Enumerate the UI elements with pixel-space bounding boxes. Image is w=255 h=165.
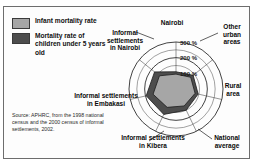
figure-frame: Infant mortality rate Mortality rate of … — [3, 6, 250, 159]
svg-text:200 %: 200 % — [180, 55, 198, 61]
radar-tick-labels: 100 %200 %300 % — [180, 40, 198, 77]
axis-label-line: National — [214, 134, 240, 141]
legend-label-infant-mortality: Infant mortality rate — [35, 17, 97, 25]
axis-label-line: Informal settlements — [74, 92, 138, 99]
axis-label-line: areas — [224, 38, 241, 45]
axis-label-line: Other — [223, 23, 240, 30]
axis-label-line: Nairobi — [161, 19, 183, 26]
axis-label-line: in Nairobi — [110, 44, 140, 51]
axis-label-other-urban-areas: Otherurbanareas — [212, 23, 252, 46]
legend-item-infant-mortality: Infant mortality rate — [12, 17, 108, 29]
legend-item-under5-mortality: Mortality rate of children under 5 years… — [12, 32, 108, 57]
axis-label-informal-embakasi: Informal settlementsin Embakasi — [60, 92, 152, 107]
radar-chart: 100 %200 %300 % Nairobi Otherurbanareas … — [102, 13, 254, 160]
axis-label-line: average — [215, 142, 240, 149]
axis-label-informal-nairobi: Informalsettlementsin Nairobi — [98, 29, 152, 52]
axis-label-line: in Embakasi — [87, 100, 125, 107]
axis-label-line: Informal — [112, 29, 138, 36]
svg-text:300 %: 300 % — [180, 40, 198, 46]
axis-label-national-average: Nationalaverage — [205, 134, 249, 149]
axis-label-line: in Kibera — [139, 142, 167, 149]
axis-label-line: settlements — [107, 37, 143, 44]
source-note: Source: APHRC, from the 1998 national ce… — [12, 112, 104, 133]
radar-series — [146, 72, 198, 115]
axis-label-line: Rural — [225, 82, 242, 89]
axis-label-line: area — [226, 90, 239, 97]
axis-label-nairobi: Nairobi — [142, 19, 202, 27]
legend-swatch-infant-icon — [12, 18, 30, 29]
axis-label-informal-kibera: Informal settlementsin Kibera — [108, 134, 198, 149]
axis-label-line: Informal settlements — [121, 134, 185, 141]
legend-swatch-under5-icon — [12, 33, 30, 44]
axis-label-line: urban — [223, 31, 241, 38]
svg-text:100 %: 100 % — [180, 71, 198, 77]
axis-label-rural-area: Ruralarea — [214, 82, 252, 97]
chart-legend: Infant mortality rate Mortality rate of … — [12, 17, 108, 60]
